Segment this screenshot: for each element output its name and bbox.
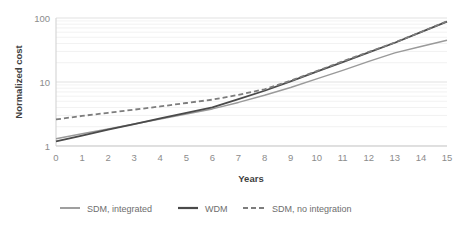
legend-label-0: SDM, integrated xyxy=(87,204,152,214)
x-tick-label: 15 xyxy=(442,152,453,163)
x-tick-label: 11 xyxy=(338,152,348,163)
x-tick-label: 1 xyxy=(79,152,84,163)
y-tick-labels: 110100 xyxy=(34,13,50,152)
x-tick-label: 7 xyxy=(236,152,241,163)
x-tick-label: 3 xyxy=(132,152,137,163)
x-tick-label: 8 xyxy=(262,152,267,163)
y-tick-label: 10 xyxy=(39,77,50,88)
x-tick-label: 4 xyxy=(158,152,163,163)
x-tick-label: 5 xyxy=(184,152,189,163)
x-tick-label: 2 xyxy=(105,152,110,163)
x-tick-label: 14 xyxy=(416,152,427,163)
legend: SDM, integratedWDMSDM, no integration xyxy=(60,204,352,214)
x-tick-label: 12 xyxy=(364,152,375,163)
y-tick-label: 1 xyxy=(45,141,50,152)
chart-container: 0123456789101112131415 110100 Years Norm… xyxy=(0,0,460,225)
x-tick-label: 13 xyxy=(390,152,401,163)
x-tick-label: 0 xyxy=(53,152,58,163)
gridlines xyxy=(56,18,447,146)
line-chart: 0123456789101112131415 110100 Years Norm… xyxy=(0,0,460,225)
legend-label-2: SDM, no integration xyxy=(272,204,352,214)
legend-label-1: WDM xyxy=(205,204,228,214)
x-tick-label: 9 xyxy=(288,152,293,163)
x-tick-label: 6 xyxy=(210,152,215,163)
x-tick-labels: 0123456789101112131415 xyxy=(53,152,452,163)
x-tick-label: 10 xyxy=(311,152,322,163)
x-axis-title: Years xyxy=(238,173,263,184)
y-axis-title: Normalized cost xyxy=(13,44,24,118)
y-tick-label: 100 xyxy=(34,13,50,24)
